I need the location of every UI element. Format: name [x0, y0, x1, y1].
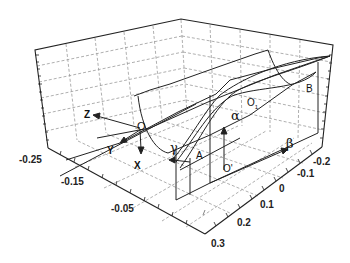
- axes-frame: [35, 19, 333, 234]
- surface-curves: [60, 50, 330, 200]
- tick-label-right-4: 0.2: [237, 218, 251, 228]
- label-x: X: [134, 161, 141, 171]
- label-beta: β: [286, 137, 294, 150]
- plot-canvas: [0, 0, 350, 263]
- label-z: Z: [84, 110, 90, 120]
- label-o1: O1: [247, 98, 258, 110]
- tick-label-left-0: -0.25: [19, 155, 42, 165]
- tick-label-right-1: -0.1: [297, 169, 314, 179]
- tick-label-right-3: 0.1: [260, 200, 274, 210]
- diagram-3d-surface: Z Y X O O1 O' A B α β γ -0.25 -0.15 -0.0…: [0, 0, 350, 263]
- label-y: Y: [107, 146, 114, 156]
- tick-label-left-2: -0.05: [111, 204, 134, 214]
- tick-label-right-0: -0.2: [313, 157, 330, 167]
- tick-label-left-1: -0.15: [61, 177, 84, 187]
- label-point-b: B: [306, 84, 313, 94]
- tick-label-right-2: 0: [279, 184, 285, 194]
- label-point-a: A: [196, 151, 203, 161]
- label-o-prime: O': [223, 164, 233, 174]
- label-origin-o: O: [137, 121, 146, 132]
- tick-label-right-5: 0.3: [211, 239, 225, 249]
- label-gamma: γ: [170, 141, 178, 154]
- label-alpha: α: [231, 109, 240, 122]
